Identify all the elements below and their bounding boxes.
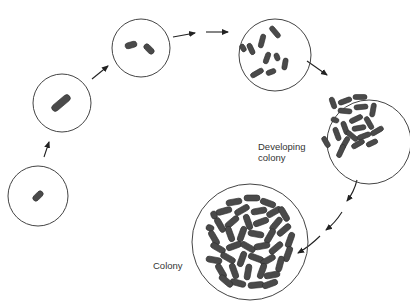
arrow-2-to-3 bbox=[92, 66, 108, 79]
stage-1-cells bbox=[32, 190, 45, 203]
stage-3-cells bbox=[124, 41, 155, 56]
arrow-5-to-6b bbox=[326, 212, 342, 230]
arrow-5-to-6a bbox=[347, 180, 357, 201]
stage-6-cells bbox=[205, 195, 295, 290]
developing-label-line2: colony bbox=[258, 152, 306, 163]
colony-label: Colony bbox=[153, 260, 183, 271]
developing-colony-label: Developing colony bbox=[258, 141, 306, 163]
arrow-3-to-4a bbox=[173, 33, 195, 37]
developing-label-line1: Developing bbox=[258, 141, 306, 152]
colony-growth-diagram bbox=[0, 0, 410, 307]
arrow-1-to-2 bbox=[44, 142, 49, 157]
stage-3-circle bbox=[112, 19, 170, 77]
arrow-5-to-6c bbox=[298, 236, 320, 253]
stage-2-cells bbox=[50, 93, 71, 113]
